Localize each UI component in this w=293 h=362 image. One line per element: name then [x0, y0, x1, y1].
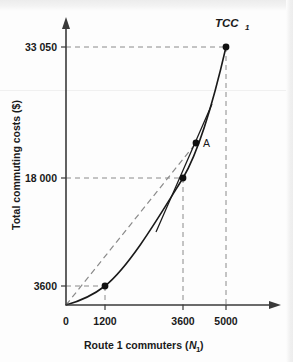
chord-ray-to-point-a — [66, 143, 196, 305]
tangent-line — [156, 104, 212, 232]
chart-svg: 33 050 18 000 3600 0 1200 3600 5000 Tota… — [0, 0, 293, 362]
curve-label-tcc1: TCC 1 — [215, 17, 250, 32]
marker-3600-18000 — [180, 175, 187, 182]
curve-label-main: TCC — [215, 17, 239, 29]
tcc1-curve — [66, 47, 226, 305]
x-tick-label-0: 0 — [63, 315, 69, 327]
marker-5000-33050 — [223, 44, 230, 51]
axes — [62, 17, 281, 309]
dashed-leader-lines — [66, 47, 226, 305]
y-axis-title: Total commuting costs ($) — [10, 100, 22, 230]
x-axis-title-main: Route 1 commuters ( — [84, 339, 189, 351]
point-a-label: A — [203, 137, 210, 149]
data-point-markers — [102, 44, 230, 290]
x-tick-label-5000: 5000 — [214, 315, 238, 327]
x-tick-label-1200: 1200 — [93, 315, 117, 327]
marker-point-a — [193, 140, 200, 147]
y-tick-label-18000: 18 000 — [25, 172, 57, 184]
y-axis-arrowhead — [62, 17, 70, 29]
x-axis-title: Route 1 commuters ( N 1 ) — [84, 339, 204, 354]
y-tick-label-33050: 33 050 — [25, 41, 57, 53]
x-axis-arrowhead — [269, 301, 281, 309]
x-axis-title-close: ) — [200, 339, 204, 351]
marker-1200-3600 — [102, 283, 109, 290]
figure-container: 33 050 18 000 3600 0 1200 3600 5000 Tota… — [0, 0, 293, 362]
curve-label-subscript: 1 — [245, 23, 250, 32]
y-tick-label-3600: 3600 — [34, 280, 58, 292]
x-tick-label-3600: 3600 — [171, 315, 195, 327]
